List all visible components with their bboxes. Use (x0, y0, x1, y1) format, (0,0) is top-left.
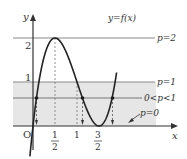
function-graph: y x O 2 1 1 2 1 3 2 y=f(x) p=2 p=1 0<p<1… (0, 0, 187, 159)
x-tick-three-halves-den: 2 (95, 142, 101, 152)
y-tick-1: 1 (25, 72, 31, 83)
x-axis-arrow-icon (171, 123, 178, 129)
x-tick-half-den: 2 (52, 142, 58, 152)
label-p-between-0-1: 0<p<1 (144, 93, 176, 103)
origin-label: O (23, 129, 31, 140)
y-axis-arrow-icon (30, 14, 36, 21)
label-p-equals-0: p=0 (140, 108, 159, 118)
x-axis-label: x (172, 130, 178, 141)
label-p-equals-2: p=2 (157, 33, 176, 43)
label-p-equals-1: p=1 (157, 77, 176, 87)
y-tick-2: 2 (25, 40, 31, 51)
x-tick-half-num: 1 (52, 130, 58, 140)
x-tick-three-halves-num: 3 (95, 130, 101, 140)
y-axis-label: y (22, 11, 29, 22)
curve-label: y=f(x) (107, 13, 137, 23)
x-tick-one: 1 (74, 130, 80, 140)
